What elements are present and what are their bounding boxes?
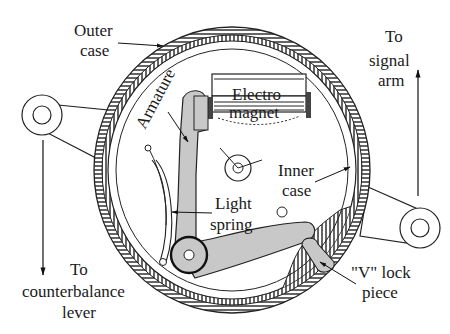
svg-text:piece: piece xyxy=(362,283,398,302)
svg-text:"V" lock: "V" lock xyxy=(351,263,411,282)
right-lever-arm xyxy=(360,187,440,248)
label-v-lock-piece: "V" lock piece xyxy=(351,263,411,302)
svg-text:spring: spring xyxy=(210,215,253,234)
label-inner-case: Inner case xyxy=(278,161,314,200)
svg-text:arm: arm xyxy=(378,71,404,90)
outer-case-leader xyxy=(118,43,163,46)
svg-text:magnet: magnet xyxy=(229,103,279,122)
signal-mechanism-diagram: Outer case Armature Electro magnet To si… xyxy=(0,0,450,334)
label-to-signal-arm: To signal arm xyxy=(369,27,410,90)
svg-text:counterbalance: counterbalance xyxy=(22,282,125,301)
pin-hole xyxy=(277,207,287,217)
svg-text:To: To xyxy=(385,27,403,46)
label-outer-case: Outer case xyxy=(74,21,113,60)
svg-text:signal: signal xyxy=(369,51,410,70)
label-electromagnet: Electro magnet xyxy=(229,85,281,122)
svg-text:case: case xyxy=(80,41,109,60)
label-to-counterbalance-lever: To counterbalance lever xyxy=(22,260,125,322)
svg-text:Outer: Outer xyxy=(74,21,113,40)
svg-text:Electro: Electro xyxy=(232,85,281,104)
svg-text:case: case xyxy=(282,181,311,200)
svg-text:Inner: Inner xyxy=(278,161,314,180)
svg-text:Light: Light xyxy=(215,194,252,213)
svg-text:lever: lever xyxy=(62,303,96,322)
svg-text:To: To xyxy=(70,260,88,279)
